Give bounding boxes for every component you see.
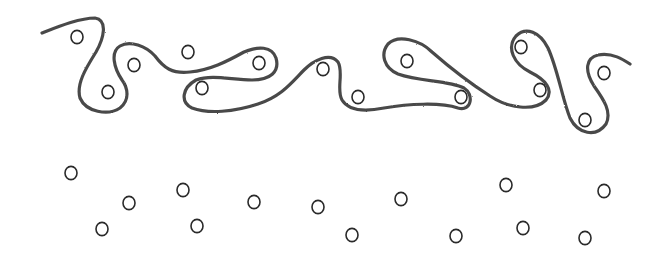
circle-above-7 xyxy=(352,90,364,103)
circle-below-10 xyxy=(500,178,512,191)
circle-above-5 xyxy=(253,56,265,69)
circle-above-4 xyxy=(196,81,208,94)
circle-below-7 xyxy=(346,228,358,241)
circle-below-3 xyxy=(177,183,189,196)
circle-above-8 xyxy=(401,54,413,67)
circle-below-4 xyxy=(191,219,203,232)
circle-above-6 xyxy=(317,62,329,75)
circle-above-13 xyxy=(598,66,610,79)
circle-below-1 xyxy=(96,222,108,235)
circle-below-13 xyxy=(579,231,591,244)
circle-above-11 xyxy=(534,83,546,96)
diagram-svg xyxy=(0,0,659,255)
circle-below-8 xyxy=(395,192,407,205)
circle-below-11 xyxy=(517,221,529,234)
circle-below-9 xyxy=(450,229,462,242)
circle-above-1 xyxy=(102,85,114,98)
circle-above-0 xyxy=(71,30,83,43)
circle-above-12 xyxy=(579,113,591,126)
circle-above-9 xyxy=(455,90,467,103)
circle-below-0 xyxy=(65,166,77,179)
circle-below-12 xyxy=(598,184,610,197)
circle-above-2 xyxy=(128,58,140,71)
diagram-canvas xyxy=(0,0,659,255)
circle-below-5 xyxy=(248,195,260,208)
circle-above-10 xyxy=(515,40,527,53)
wavy-boundary-curve xyxy=(42,18,630,133)
circle-above-3 xyxy=(182,45,194,58)
circle-below-6 xyxy=(312,200,324,213)
circle-below-2 xyxy=(123,196,135,209)
circles-below-curve xyxy=(65,166,610,244)
